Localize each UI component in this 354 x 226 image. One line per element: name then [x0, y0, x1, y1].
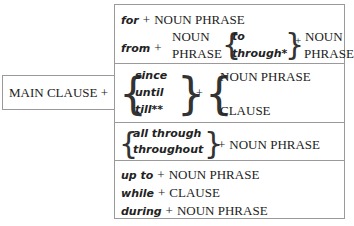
- up-to-line: up to + NOUN PHRASE: [121, 166, 259, 182]
- plus-sign: +: [143, 12, 150, 27]
- row-up-to-while-during: up to + NOUN PHRASE while + CLAUSE durin…: [115, 161, 344, 219]
- object-clause: CLAUSE: [220, 104, 271, 117]
- object-noun: NOUN: [172, 30, 210, 43]
- from-line: from +: [121, 39, 162, 55]
- object-clause: CLAUSE: [169, 185, 220, 200]
- main-clause-label: MAIN CLAUSE +: [9, 85, 108, 101]
- object-noun-phrase: NOUN PHRASE: [169, 167, 260, 182]
- prep-during: during: [121, 205, 162, 218]
- object-noun-phrase: NOUN PHRASE: [220, 70, 311, 83]
- option-through: through*: [232, 48, 287, 59]
- option-since: since: [135, 70, 167, 81]
- object-noun-phrase: NOUN PHRASE: [229, 137, 320, 152]
- row-all-through-throughout: { all through throughout } + NOUN PHRASE: [115, 123, 344, 161]
- prep-for: for: [121, 14, 139, 27]
- plus-sign: +: [158, 185, 165, 200]
- prep-while: while: [121, 187, 154, 200]
- preposition-table: for + NOUN PHRASE from + NOUN PHRASE { t…: [114, 4, 345, 219]
- row-since-until-till: { since until till** } + { NOUN PHRASE C…: [115, 64, 344, 123]
- while-line: while + CLAUSE: [121, 184, 220, 200]
- object-noun-phrase: NOUN PHRASE: [154, 12, 245, 27]
- all-through-object: + NOUN PHRASE: [218, 136, 320, 152]
- row-for-from: for + NOUN PHRASE from + NOUN PHRASE { t…: [115, 5, 344, 64]
- option-throughout: throughout: [133, 144, 203, 155]
- object-noun-phrase: NOUN PHRASE: [177, 203, 268, 218]
- plus-sign: +: [218, 137, 225, 152]
- for-line: for + NOUN PHRASE: [121, 11, 245, 27]
- object2-noun: NOUN: [287, 30, 343, 43]
- plus-sign: +: [196, 87, 203, 99]
- object-phrase: PHRASE: [172, 47, 222, 60]
- plus-sign: +: [166, 203, 173, 218]
- option-till: till**: [135, 104, 163, 115]
- plus-sign: +: [157, 167, 164, 182]
- plus-sign: +: [154, 40, 161, 55]
- prep-up-to: up to: [121, 169, 153, 182]
- during-line: during + NOUN PHRASE: [121, 202, 268, 218]
- prep-from: from: [121, 42, 150, 55]
- option-to: to: [232, 31, 245, 42]
- option-until: until: [135, 87, 163, 98]
- object2-phrase: PHRASE: [287, 47, 354, 60]
- main-clause-box: MAIN CLAUSE +: [2, 75, 115, 110]
- option-all-through: all through: [133, 128, 201, 139]
